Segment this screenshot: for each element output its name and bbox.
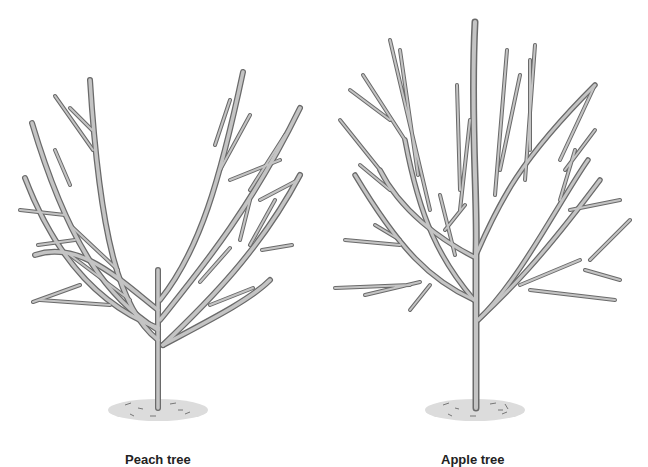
apple-tree-label: Apple tree bbox=[441, 452, 505, 467]
apple-tree bbox=[335, 22, 630, 408]
peach-tree bbox=[20, 72, 300, 408]
peach-tree-label: Peach tree bbox=[125, 452, 191, 467]
